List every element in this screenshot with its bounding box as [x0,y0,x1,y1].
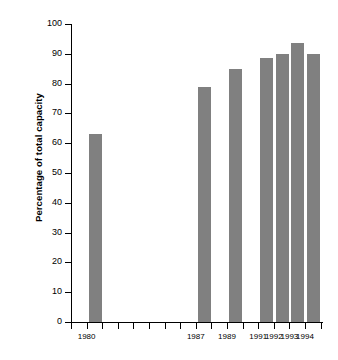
x-axis-tick [180,323,181,329]
bar [89,134,102,322]
x-axis-tick-label: 1994 [285,333,325,341]
x-axis-tick [102,323,103,329]
x-axis-tick-label: 1980 [67,333,107,341]
x-axis-tick [133,323,134,329]
x-axis-tick [87,323,88,329]
x-axis-tick [321,323,322,329]
bar [291,43,304,322]
x-axis-tick [118,323,119,329]
x-axis-tick [196,323,197,329]
bar [198,87,211,322]
x-axis-tick [149,323,150,329]
x-axis-tick [227,323,228,329]
x-axis-tick [71,323,72,329]
bar [260,58,273,322]
x-axis-tick [211,323,212,329]
x-axis-tick [165,323,166,329]
bar [229,69,242,322]
bar [307,54,320,322]
x-axis-tick [243,323,244,329]
bars-layer [0,0,338,322]
bar [276,54,289,322]
x-axis-line [71,322,323,323]
x-axis-tick [274,323,275,329]
x-axis-tick [258,323,259,329]
bar-chart: Percentage of total capacity 01020304050… [0,0,338,360]
x-axis-tick [305,323,306,329]
x-axis-tick [289,323,290,329]
